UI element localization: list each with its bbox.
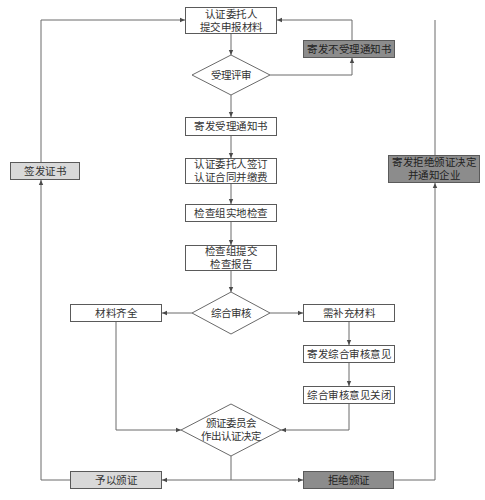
node-deny-notice: 寄发拒绝颁证决定 并通知企业 <box>388 155 480 183</box>
node-submit-report-line1: 检查组提交 <box>205 245 258 258</box>
edge-grant-issuecert <box>41 180 70 480</box>
node-grant: 予以颁证 <box>70 471 162 489</box>
node-committee-decision-line1: 颁证委员会 <box>206 417 256 430</box>
node-deny-notice-line1: 寄发拒绝颁证决定 <box>392 156 476 169</box>
node-reject-notice-label: 寄发不受理通知书 <box>307 43 391 56</box>
node-close-opinion-label: 综合审核意见关闭 <box>307 389 391 402</box>
node-deny-notice-line2: 并通知企业 <box>408 169 461 182</box>
edge-deny-denynotice <box>394 183 435 480</box>
node-issue-cert: 签发证书 <box>10 162 80 180</box>
node-submit-line2: 提交申报材料 <box>200 21 263 34</box>
node-issue-cert-label: 签发证书 <box>24 165 66 178</box>
node-committee-decision: 颁证委员会 作出认证决定 <box>181 404 281 456</box>
node-deny: 拒绝颁证 <box>303 471 394 489</box>
node-sign-contract-line1: 认证委托人签订 <box>194 158 268 171</box>
node-materials-complete-label: 材料齐全 <box>95 307 137 320</box>
node-send-opinion: 寄发综合审核意见 <box>303 345 395 363</box>
node-comprehensive-review: 综合审核 <box>192 292 270 334</box>
node-submit-line1: 认证委托人 <box>205 8 258 21</box>
node-onsite-inspection: 检查组实地检查 <box>185 204 277 222</box>
node-materials-complete: 材料齐全 <box>70 304 162 322</box>
node-reject-notice: 寄发不受理通知书 <box>303 40 395 58</box>
edge-review-rejectnotice <box>270 58 352 75</box>
node-need-materials-label: 需补充材料 <box>323 307 376 320</box>
node-committee-decision-line2: 作出认证决定 <box>201 430 261 443</box>
edge-close-decision <box>281 404 349 430</box>
node-accept-notice: 寄发受理通知书 <box>185 117 277 136</box>
node-send-opinion-label: 寄发综合审核意见 <box>307 348 391 361</box>
node-sign-contract-line2: 认证合同并缴费 <box>194 171 268 184</box>
edge-issuecert-submit <box>41 20 185 162</box>
node-acceptance-review-label: 受理评审 <box>211 69 251 82</box>
edge-rejectnotice-submit <box>277 20 352 40</box>
node-submit-report-line2: 检查报告 <box>210 258 252 271</box>
node-acceptance-review: 受理评审 <box>192 55 270 95</box>
node-submit-report: 检查组提交 检查报告 <box>185 245 277 271</box>
node-submit: 认证委托人 提交申报材料 <box>185 7 277 34</box>
node-deny-label: 拒绝颁证 <box>328 474 370 487</box>
node-accept-notice-label: 寄发受理通知书 <box>194 120 268 133</box>
node-sign-contract: 认证委托人签订 认证合同并缴费 <box>185 158 277 184</box>
node-close-opinion: 综合审核意见关闭 <box>303 386 395 404</box>
edge-complete-decision <box>116 322 181 430</box>
node-need-materials: 需补充材料 <box>303 304 395 322</box>
node-comprehensive-review-label: 综合审核 <box>211 307 251 320</box>
node-grant-label: 予以颁证 <box>95 474 137 487</box>
node-onsite-inspection-label: 检查组实地检查 <box>194 207 268 220</box>
